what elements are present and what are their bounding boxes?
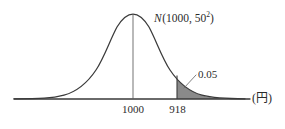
distribution-close-paren: ) [210, 12, 214, 24]
normal-distribution-figure: N(1000, 502) 0.05 1000 918 (円) [0, 0, 285, 129]
x-tick-label-918: 918 [161, 104, 194, 115]
x-axis-unit-label: (円) [252, 92, 272, 104]
distribution-mean-value: 1000 [166, 12, 189, 24]
distribution-symbol: N [154, 12, 162, 24]
bell-curve-path [14, 14, 245, 99]
tail-area-value-label: 0.05 [198, 69, 217, 80]
x-tick-label-1000: 1000 [113, 104, 153, 115]
distribution-sigma-value: 50 [195, 12, 207, 24]
distribution-label: N(1000, 502) [154, 11, 214, 24]
area-leader-line [184, 75, 196, 88]
